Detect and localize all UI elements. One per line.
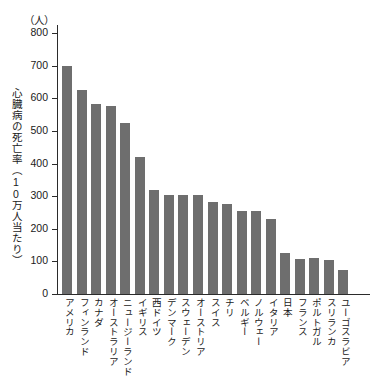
bar (120, 123, 130, 294)
bar (135, 157, 145, 294)
bar (295, 259, 305, 294)
bar (237, 211, 247, 294)
x-axis-tick-label: チリ (221, 298, 234, 318)
y-axis-tick-mark (52, 229, 57, 230)
y-axis-tick-label: 200 (30, 222, 48, 234)
bar (193, 195, 203, 295)
x-axis-labels: アメリカフィンランドカナダオーストラリアニュージーランドイギリス西ドイツデンマー… (58, 298, 370, 378)
bar (164, 195, 174, 294)
y-axis-tick-label: 800 (30, 26, 48, 38)
y-axis-tick-mark (52, 98, 57, 99)
plot-area (58, 25, 370, 294)
x-axis-tick-label: デンマーク (163, 298, 176, 347)
y-axis-tick-label: 600 (30, 91, 48, 103)
y-axis-tick-mark (52, 33, 57, 34)
x-axis-tick-label: 日本 (279, 298, 292, 318)
y-axis-tick-mark (52, 196, 57, 197)
x-axis-tick-label: オーストリア (192, 298, 205, 357)
y-axis-tick-label: 100 (30, 254, 48, 266)
bar (178, 195, 188, 294)
y-axis-tick-label: 500 (30, 124, 48, 136)
x-axis-tick-label: 西ドイツ (148, 298, 161, 337)
bar-chart: （人） 心臓病の死亡率（10万人当たり） 0100200300400500600… (0, 0, 374, 379)
x-axis-tick-label: オーストラリア (105, 298, 118, 367)
y-axis-tick-label: 700 (30, 59, 48, 71)
bar (62, 66, 72, 294)
x-axis-tick-label: スイス (207, 298, 220, 327)
bar (106, 106, 116, 294)
y-axis-tick-label: 300 (30, 189, 48, 201)
x-axis-tick-label: ノルウェー (250, 298, 263, 347)
bar (208, 202, 218, 294)
x-axis-tick-label: スリランカ (323, 298, 336, 347)
x-axis-line (57, 294, 370, 295)
x-axis-tick-label: アメリカ (61, 298, 74, 337)
bar (309, 258, 319, 294)
bar (338, 270, 348, 294)
y-axis-tick-mark (52, 131, 57, 132)
y-axis-unit-label: （人） (24, 14, 54, 26)
y-axis-tick-mark (52, 261, 57, 262)
x-axis-tick-label: ベルギー (236, 298, 249, 337)
bar (280, 253, 290, 294)
x-axis-tick-label: ニュージーランド (119, 298, 132, 376)
y-axis-tick-mark (52, 294, 57, 295)
y-axis-tick-mark (52, 164, 57, 165)
bar (222, 204, 232, 294)
x-axis-tick-label: カナダ (90, 298, 103, 327)
bar (77, 90, 87, 294)
y-axis-title: 心臓病の死亡率（10万人当たり） (4, 88, 21, 288)
bar (324, 260, 334, 294)
y-axis-tick-mark (52, 66, 57, 67)
x-axis-tick-label: イタリア (265, 298, 278, 337)
bar (251, 211, 261, 294)
bar (149, 190, 159, 294)
y-axis-tick-label: 400 (30, 157, 48, 169)
y-axis-tick-label: 0 (42, 287, 48, 299)
x-axis-tick-label: ポルトガル (308, 298, 321, 347)
x-axis-tick-label: スウェーデン (177, 298, 190, 357)
x-axis-tick-label: ユーゴスラビア (337, 298, 350, 367)
bar (91, 104, 101, 294)
x-axis-tick-label: フランス (294, 298, 307, 337)
x-axis-tick-label: フィンランド (76, 298, 89, 357)
bar (266, 219, 276, 294)
x-axis-tick-label: イギリス (134, 298, 147, 337)
